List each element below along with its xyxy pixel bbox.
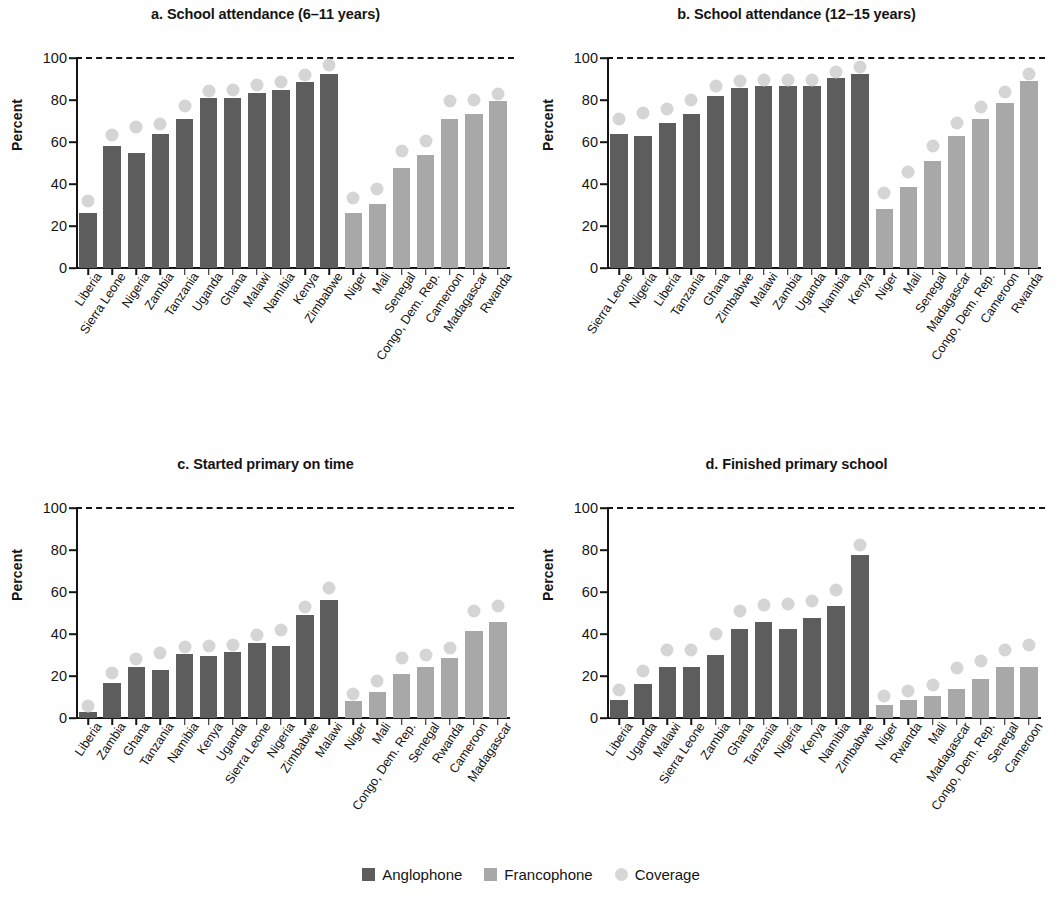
panel-c-plot: 020406080100 — [76, 508, 510, 718]
coverage-marker — [830, 583, 843, 596]
coverage-marker — [106, 128, 119, 141]
coverage-marker — [926, 679, 939, 692]
bar — [320, 600, 337, 718]
bar — [851, 74, 868, 268]
bar — [851, 555, 868, 718]
panel-d: d. Finished primary school Percent 02040… — [531, 450, 1062, 900]
panel-c-bars — [76, 508, 510, 718]
coverage-circle-icon — [615, 868, 628, 881]
coverage-marker — [902, 684, 915, 697]
bar — [248, 643, 265, 718]
panel-c-title: c. Started primary on time — [0, 456, 531, 472]
panel-b-bars — [607, 58, 1041, 268]
bar — [610, 700, 627, 718]
legend-label-anglophone: Anglophone — [382, 866, 462, 883]
coverage-marker — [974, 655, 987, 668]
coverage-marker — [613, 112, 626, 125]
coverage-marker — [805, 595, 818, 608]
panel-a-plot: 020406080100 — [76, 58, 510, 268]
bar — [152, 670, 169, 718]
bar — [1020, 667, 1037, 718]
panel-a-ytick-mark-60 — [69, 141, 76, 143]
coverage-marker — [130, 121, 143, 134]
coverage-marker — [878, 689, 891, 702]
bar — [272, 90, 289, 269]
bar — [417, 155, 434, 268]
panel-b: b. School attendance (12–15 years) Perce… — [531, 0, 1062, 450]
coverage-marker — [395, 652, 408, 665]
panel-b-ytick-mark-40 — [600, 183, 607, 185]
panel-b-ytick-mark-0 — [600, 267, 607, 269]
coverage-marker — [661, 103, 674, 116]
bar — [634, 684, 651, 718]
bar — [972, 119, 989, 268]
coverage-marker — [709, 80, 722, 93]
coverage-marker — [154, 646, 167, 659]
bar — [393, 168, 410, 268]
coverage-marker — [347, 687, 360, 700]
bar — [996, 103, 1013, 268]
bar — [441, 658, 458, 718]
coverage-marker — [226, 83, 239, 96]
panel-d-ytick-mark-0 — [600, 717, 607, 719]
bar — [876, 209, 893, 268]
panel-b-ytick-mark-20 — [600, 225, 607, 227]
panel-a-ytick-mark-80 — [69, 99, 76, 101]
coverage-marker — [443, 95, 456, 108]
bar — [779, 629, 796, 718]
coverage-marker — [202, 639, 215, 652]
panel-a-bars — [76, 58, 510, 268]
bar — [272, 646, 289, 718]
bar — [876, 705, 893, 718]
panel-b-ylabel: Percent — [540, 129, 556, 151]
bar — [176, 119, 193, 268]
figure-school-indicators: a. School attendance (6–11 years) Percen… — [0, 0, 1062, 912]
panel-d-plot: 020406080100 — [607, 508, 1041, 718]
coverage-marker — [637, 106, 650, 119]
bar — [900, 700, 917, 718]
panel-c-ytick-mark-0 — [69, 717, 76, 719]
bar — [224, 652, 241, 718]
coverage-marker — [878, 187, 891, 200]
panel-d-ytick-mark-20 — [600, 675, 607, 677]
bar — [827, 606, 844, 718]
legend-label-francophone: Francophone — [504, 866, 592, 883]
coverage-marker — [1022, 638, 1035, 651]
coverage-marker — [998, 643, 1011, 656]
coverage-marker — [950, 117, 963, 130]
coverage-marker — [299, 68, 312, 81]
coverage-marker — [274, 76, 287, 89]
bar — [79, 213, 96, 268]
coverage-marker — [443, 641, 456, 654]
coverage-marker — [781, 74, 794, 87]
coverage-marker — [467, 604, 480, 617]
coverage-marker — [926, 140, 939, 153]
coverage-marker — [974, 101, 987, 114]
coverage-marker — [178, 100, 191, 113]
bar — [659, 667, 676, 718]
coverage-marker — [419, 134, 432, 147]
coverage-marker — [685, 643, 698, 656]
xtick-label: Niger — [342, 270, 370, 302]
coverage-marker — [805, 74, 818, 87]
bar — [441, 119, 458, 268]
bar — [610, 134, 627, 268]
coverage-marker — [757, 598, 770, 611]
legend: Anglophone Francophone Coverage — [0, 866, 1062, 883]
coverage-marker — [1022, 67, 1035, 80]
bar — [369, 692, 386, 718]
bar — [634, 136, 651, 268]
legend-item-francophone: Francophone — [484, 866, 592, 883]
coverage-marker — [347, 191, 360, 204]
panel-d-title: d. Finished primary school — [531, 456, 1062, 472]
coverage-marker — [685, 94, 698, 107]
coverage-marker — [323, 581, 336, 594]
coverage-marker — [733, 604, 746, 617]
panel-d-ytick-mark-100 — [600, 507, 607, 509]
bar — [296, 82, 313, 268]
bar — [489, 622, 506, 718]
coverage-marker — [250, 629, 263, 642]
coverage-marker — [613, 683, 626, 696]
panel-c-ytick-mark-100 — [69, 507, 76, 509]
coverage-marker — [733, 75, 746, 88]
